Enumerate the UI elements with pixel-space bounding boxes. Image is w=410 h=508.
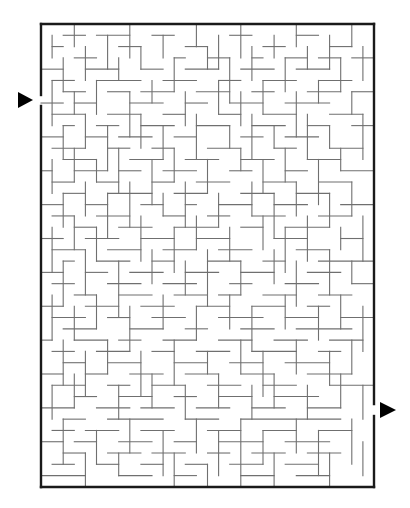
maze-board [0, 0, 410, 508]
finish-arrow-icon [380, 402, 396, 418]
start-arrow-icon [18, 92, 33, 108]
maze-walls [41, 24, 374, 487]
